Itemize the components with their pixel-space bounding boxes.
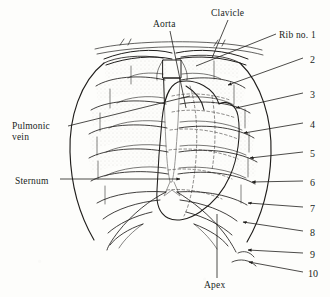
rib-number-6: 6 bbox=[310, 177, 315, 188]
label-sternum: Sternum bbox=[15, 176, 49, 187]
rib-number-7: 7 bbox=[310, 203, 315, 214]
rib-number-4: 4 bbox=[310, 119, 315, 130]
label-pulmonic-vein: Pulmonic bbox=[12, 121, 50, 132]
thorax-anatomy-figure bbox=[0, 0, 330, 297]
leader-rib-5 bbox=[250, 152, 303, 158]
rib-number-3: 3 bbox=[310, 89, 315, 100]
label-clavicle: Clavicle bbox=[211, 8, 244, 19]
rib-number-8: 8 bbox=[310, 227, 315, 238]
leader-rib-3 bbox=[236, 93, 303, 108]
label-pulmonic-vein-line2: vein bbox=[12, 132, 29, 143]
leader-rib-4 bbox=[244, 123, 303, 133]
rib-number-10: 10 bbox=[308, 268, 318, 279]
rib-number-9: 9 bbox=[310, 249, 315, 260]
label-apex: Apex bbox=[204, 280, 225, 291]
ribcage-drawing bbox=[70, 39, 271, 266]
rib-number-5: 5 bbox=[310, 148, 315, 159]
leader-rib-10 bbox=[249, 262, 303, 272]
leader-rib-8 bbox=[243, 222, 303, 231]
leader-rib-7 bbox=[248, 203, 303, 207]
leader-rib-6 bbox=[252, 181, 303, 182]
label-rib-no-1: Rib no. 1 bbox=[279, 30, 316, 41]
leader-rib-9 bbox=[248, 250, 303, 253]
leader-rib-2 bbox=[228, 58, 303, 85]
rib-number-2: 2 bbox=[310, 54, 315, 65]
label-aorta: Aorta bbox=[153, 19, 176, 30]
